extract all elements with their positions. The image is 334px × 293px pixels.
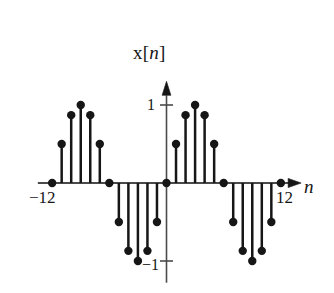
y-axis-arrowhead bbox=[162, 81, 171, 95]
stem-marker bbox=[115, 218, 123, 226]
stem-marker bbox=[277, 179, 285, 187]
stem-marker bbox=[86, 111, 94, 119]
y-axis-tick-label-negative-one: −1 bbox=[142, 257, 159, 273]
stem-marker bbox=[200, 111, 208, 119]
stem-marker bbox=[48, 179, 56, 187]
plot-title-prefix: x[ bbox=[133, 42, 149, 63]
y-axis-tick-label-one: 1 bbox=[147, 97, 155, 113]
stem-marker bbox=[267, 218, 275, 226]
x-axis-tick-label-twelve: 12 bbox=[276, 189, 293, 206]
stem-marker bbox=[210, 140, 218, 148]
stem-marker bbox=[153, 218, 161, 226]
stem-marker bbox=[258, 247, 266, 255]
x-axis-tick-label-minus-twelve: −12 bbox=[29, 189, 56, 206]
stem-plot-figure: x[n] 1 −1 −12 12 n bbox=[0, 0, 334, 293]
stem-marker bbox=[162, 179, 170, 187]
stem-marker bbox=[248, 257, 256, 265]
stem-marker bbox=[239, 247, 247, 255]
plot-title: x[n] bbox=[133, 43, 165, 62]
plot-title-suffix: ] bbox=[159, 42, 166, 63]
plot-title-variable: n bbox=[149, 42, 159, 63]
stem-marker bbox=[134, 257, 142, 265]
stem-marker bbox=[143, 247, 151, 255]
x-axis-arrowhead bbox=[288, 178, 301, 187]
x-axis-label: n bbox=[304, 177, 314, 196]
stem-plot-canvas bbox=[0, 0, 334, 293]
stem-marker bbox=[219, 179, 227, 187]
stem-marker bbox=[124, 247, 132, 255]
stem-marker bbox=[57, 140, 65, 148]
stem-marker bbox=[67, 111, 75, 119]
stem-marker bbox=[172, 140, 180, 148]
stem-marker bbox=[105, 179, 113, 187]
stem-marker bbox=[191, 101, 199, 109]
stem-marker bbox=[77, 101, 85, 109]
stem-marker bbox=[181, 111, 189, 119]
stem-marker bbox=[229, 218, 237, 226]
stem-marker bbox=[96, 140, 104, 148]
